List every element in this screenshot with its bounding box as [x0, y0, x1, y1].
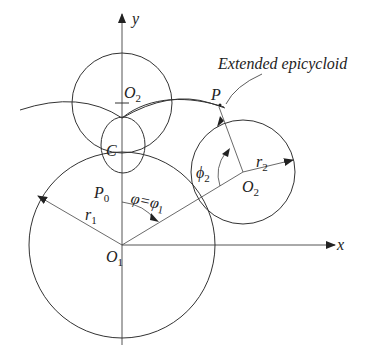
- label-c: C: [106, 142, 117, 159]
- label-phi-eq-text: φ=φ: [129, 189, 161, 213]
- label-r1: r1: [85, 206, 97, 226]
- epicycloid-label: Extended epicycloid: [217, 55, 348, 73]
- label-o1-sub: 1: [118, 256, 124, 268]
- label-phi2-sub: 2: [204, 172, 210, 184]
- label-o2-top-base: O: [124, 84, 136, 101]
- epicycloid-arc-left: [20, 102, 122, 118]
- radius-r1: [38, 196, 122, 245]
- label-r2: r2: [256, 153, 268, 173]
- label-o2-right: O2: [242, 178, 259, 198]
- label-phi2-base: ϕ: [196, 164, 204, 182]
- y-axis-label: y: [130, 10, 140, 28]
- label-o2-right-base: O: [242, 178, 254, 195]
- label-r1-sub: 1: [91, 214, 97, 226]
- label-p0: P0: [93, 184, 110, 204]
- center-line-o1-o2: [122, 172, 243, 245]
- radius-o2-p: [219, 107, 243, 172]
- annotation-leader: [226, 74, 262, 104]
- epicycloid-diagram: y x Extended epicycloid O2 C P P0 O1 O2 …: [0, 0, 378, 351]
- point-p-marker: [219, 104, 222, 107]
- label-o1: O1: [106, 248, 123, 268]
- radius-r2: [243, 160, 293, 172]
- diagram-canvas: y x Extended epicycloid O2 C P P0 O1 O2 …: [0, 0, 378, 351]
- x-axis-label: x: [336, 236, 344, 253]
- label-p: P: [210, 86, 221, 103]
- label-o1-base: O: [106, 248, 118, 265]
- label-o2-right-sub: 2: [254, 186, 260, 198]
- label-r2-sub: 2: [262, 161, 268, 173]
- label-p0-base: P: [93, 184, 104, 201]
- label-phi-eq-sub: 1: [157, 203, 165, 216]
- label-o2-top-sub: 2: [136, 92, 142, 104]
- angle-arc-phi2: [218, 152, 226, 186]
- label-phi2: ϕ2: [196, 164, 210, 184]
- label-o2-top: O2: [124, 84, 141, 104]
- label-p0-sub: 0: [104, 192, 110, 204]
